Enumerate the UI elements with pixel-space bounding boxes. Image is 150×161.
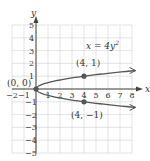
y-tick-label: −3 — [25, 123, 37, 132]
x-axis-label: x — [145, 84, 150, 94]
x-tick-label: 4 — [82, 91, 87, 100]
point-label-4-1: (4, 1) — [76, 58, 100, 68]
data-point — [33, 86, 38, 91]
x-tick-label: 8 — [130, 91, 135, 100]
y-axis-label: y — [30, 8, 37, 18]
y-tick-label: −5 — [25, 149, 37, 158]
y-tick-label: −2 — [25, 111, 37, 120]
y-tick-label: −4 — [25, 136, 37, 145]
equation-label: x = 4y2 — [86, 39, 119, 51]
x-tick-label: 7 — [118, 91, 123, 100]
curve-upper-branch — [36, 71, 136, 89]
y-tick-label: 4 — [29, 34, 34, 43]
point-label-4-neg1: (4, −1) — [71, 110, 103, 120]
parabola-plot: x y −2−112345678−5−4−3−2−112345 x = 4y2 … — [0, 0, 150, 161]
x-tick-label: 6 — [106, 91, 111, 100]
y-tick-label: 3 — [29, 47, 34, 56]
y-tick-label: −1 — [25, 98, 37, 107]
x-tick-label: 3 — [70, 91, 75, 100]
point-label-origin: (0, 0) — [7, 78, 31, 88]
x-tick-label: 5 — [94, 91, 99, 100]
data-point — [81, 74, 86, 79]
x-axis-arrow-icon — [136, 87, 143, 92]
y-tick-label: 2 — [29, 59, 34, 68]
data-point — [81, 99, 86, 104]
x-tick-label: −2 — [6, 91, 18, 100]
y-tick-label: 5 — [29, 21, 34, 30]
